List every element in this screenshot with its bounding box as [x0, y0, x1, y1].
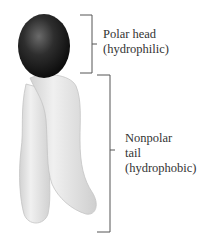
nonpolar-tail-title-2: tail: [125, 146, 197, 161]
phospholipid-diagram: Polar head (hydrophilic) Nonpolar tail (…: [0, 0, 208, 237]
polar-head-property: (hydrophilic): [103, 42, 169, 57]
nonpolar-tail: [20, 75, 97, 223]
polar-head: [18, 14, 70, 78]
head-bracket: [80, 15, 97, 73]
nonpolar-tail-label: Nonpolar tail (hydrophobic): [125, 131, 197, 176]
tail-bracket: [97, 75, 115, 232]
polar-head-label: Polar head (hydrophilic): [103, 27, 169, 57]
nonpolar-tail-title-1: Nonpolar: [125, 131, 197, 146]
nonpolar-tail-property: (hydrophobic): [125, 161, 197, 176]
polar-head-title: Polar head: [103, 27, 169, 42]
